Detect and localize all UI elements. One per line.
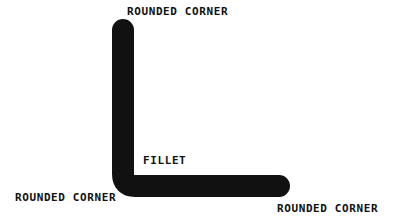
label-rounded-corner-bottom-right: ROUNDED CORNER <box>277 204 378 214</box>
label-rounded-corner-bottom-left: ROUNDED CORNER <box>15 193 116 203</box>
label-rounded-corner-top: ROUNDED CORNER <box>127 7 228 17</box>
filleted-l-bracket-shape <box>0 0 396 222</box>
technical-drawing-figure: ROUNDED CORNER FILLET ROUNDED CORNER ROU… <box>0 0 396 222</box>
label-fillet: FILLET <box>143 156 186 166</box>
